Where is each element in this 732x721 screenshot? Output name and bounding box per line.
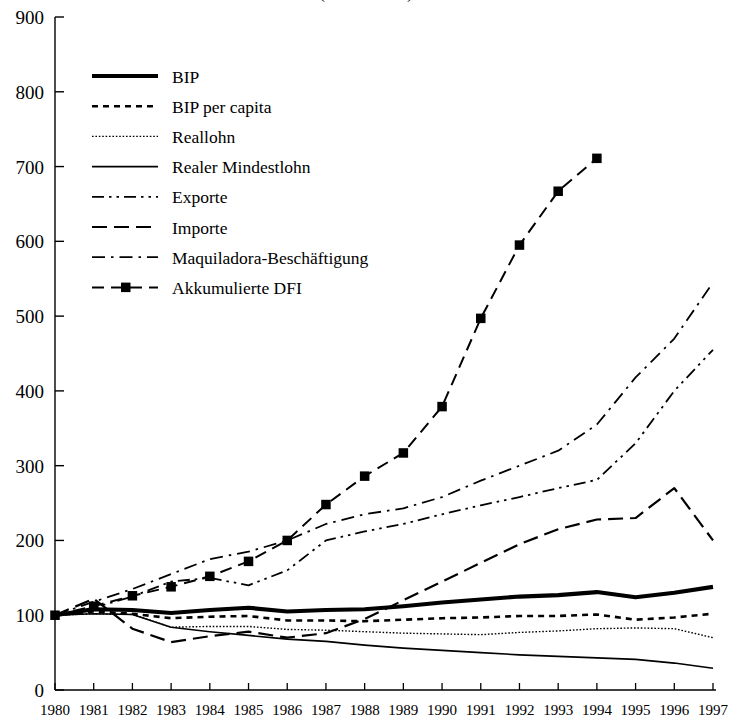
- series-marker-square: [321, 500, 331, 510]
- x-tick-label: 1995: [621, 702, 651, 718]
- x-tick-label: 1983: [156, 702, 186, 718]
- y-tick-label: 400: [16, 381, 45, 402]
- x-tick-label: 1980: [40, 702, 70, 718]
- y-tick-label: 600: [16, 231, 45, 252]
- series-marker-square: [360, 471, 370, 481]
- y-tick-label: 0: [35, 680, 45, 701]
- x-tick-label: 1987: [311, 702, 342, 718]
- legend-label-6: Maquiladora-Beschäftigung: [172, 248, 369, 268]
- y-tick-label: 700: [16, 157, 45, 178]
- y-tick-label: 300: [16, 456, 45, 477]
- legend-label-0: BIP: [172, 67, 200, 87]
- legend-label-2: Reallohn: [172, 127, 235, 147]
- x-tick-label: 1996: [659, 702, 690, 718]
- x-tick-label: 1993: [543, 702, 573, 718]
- series-marker-square: [166, 582, 176, 592]
- legend-marker-square: [121, 283, 131, 293]
- series-marker-square: [515, 240, 525, 250]
- x-tick-label: 1991: [466, 702, 496, 718]
- series-marker-square: [399, 448, 409, 458]
- chart-figure: (1980 = 100) 010020030040050060070080090…: [0, 0, 732, 721]
- y-tick-label: 100: [16, 605, 45, 626]
- x-tick-label: 1984: [195, 702, 226, 718]
- x-tick-label: 1997: [698, 702, 729, 718]
- line-chart-canvas: (1980 = 100) 010020030040050060070080090…: [0, 0, 732, 721]
- x-tick-label: 1994: [582, 702, 613, 718]
- series-marker-square: [244, 557, 254, 567]
- legend-label-3: Realer Mindestlohn: [172, 157, 311, 177]
- series-marker-square: [89, 601, 99, 611]
- y-tick-label: 900: [16, 7, 45, 28]
- series-marker-square: [128, 591, 138, 601]
- series-marker-square: [476, 314, 486, 324]
- series-marker-square: [592, 154, 602, 164]
- x-tick-label: 1982: [117, 702, 147, 718]
- x-tick-label: 1985: [234, 702, 264, 718]
- series-marker-square: [437, 402, 447, 412]
- legend-label-1: BIP per capita: [172, 97, 272, 117]
- x-tick-label: 1992: [504, 702, 534, 718]
- y-tick-label: 800: [16, 82, 45, 103]
- x-tick-label: 1989: [388, 702, 418, 718]
- x-tick-label: 1986: [272, 702, 303, 718]
- x-tick-label: 1981: [79, 702, 109, 718]
- x-tick-label: 1988: [350, 702, 380, 718]
- series-marker-square: [282, 536, 292, 546]
- legend-label-5: Importe: [172, 218, 228, 238]
- series-marker-square: [553, 186, 563, 196]
- legend-label-7: Akkumulierte DFI: [172, 278, 302, 298]
- y-tick-label: 200: [16, 530, 45, 551]
- x-tick-label: 1990: [427, 702, 457, 718]
- series-marker-square: [205, 572, 215, 582]
- series-marker-square: [50, 610, 60, 620]
- y-tick-label: 500: [16, 306, 45, 327]
- legend-label-4: Exporte: [172, 187, 228, 207]
